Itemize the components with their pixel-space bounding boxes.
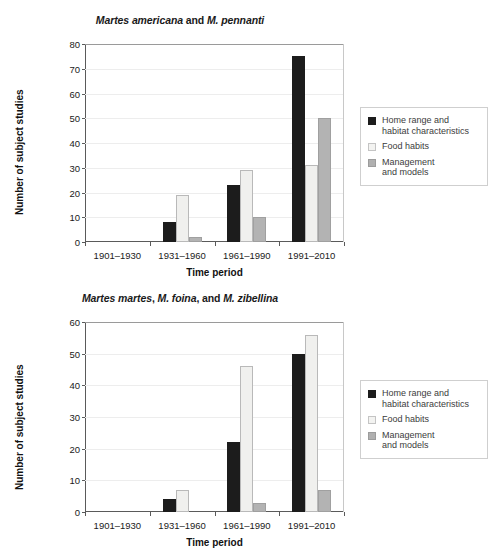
y-tick-mark — [82, 168, 85, 169]
x-tick-mark — [85, 242, 86, 246]
y-tick-label: 30 — [69, 162, 80, 173]
x-tick-mark — [85, 512, 86, 516]
plot-right-border — [343, 44, 344, 242]
y-tick-label: 10 — [69, 475, 80, 486]
bar — [292, 56, 305, 242]
chart-title-part: Martes americana — [96, 14, 183, 26]
x-tick-mark — [215, 242, 216, 246]
y-tick-label: 50 — [69, 348, 80, 359]
legend-item[interactable]: Management and models — [368, 430, 480, 451]
y-tick-label: 40 — [69, 138, 80, 149]
legend-item[interactable]: Home range and habitat characteristics — [368, 388, 480, 409]
chart-title-part: M. pennanti — [207, 14, 264, 26]
x-tick-mark — [150, 512, 151, 516]
gray-square-icon — [368, 432, 376, 440]
y-tick-mark — [82, 193, 85, 194]
x-tick-mark — [279, 242, 280, 246]
x-tick-label: 1961–1990 — [223, 520, 271, 531]
gridline — [85, 118, 344, 119]
y-tick-mark — [82, 480, 85, 481]
y-tick-mark — [82, 94, 85, 95]
plot-top-border — [85, 322, 344, 323]
x-tick-label: 1901–1930 — [94, 520, 142, 531]
chart-title-part: , and — [196, 292, 223, 304]
y-tick-label: 30 — [69, 412, 80, 423]
bar — [240, 366, 253, 512]
x-tick-label: 1901–1930 — [94, 250, 142, 261]
bar — [240, 170, 253, 242]
bar — [176, 490, 189, 512]
x-axis-label-top: Time period — [85, 267, 344, 278]
gridline — [85, 69, 344, 70]
chart-title-part: and — [183, 14, 207, 26]
y-tick-mark — [82, 118, 85, 119]
y-tick-mark — [82, 143, 85, 144]
bar — [253, 217, 266, 242]
y-axis-label-bottom: Number of subject studies — [14, 364, 25, 490]
y-tick-label: 20 — [69, 443, 80, 454]
bar — [305, 165, 318, 242]
x-tick-mark — [344, 512, 345, 516]
y-axis-label-top: Number of subject studies — [14, 89, 25, 215]
chart-panel-martes-americana: Martes americana and M. pennanti Number … — [0, 0, 497, 284]
legend-item-label: Management and models — [382, 430, 435, 451]
y-tick-label: 80 — [69, 39, 80, 50]
chart-title-part: Martes martes — [82, 292, 152, 304]
x-tick-mark — [344, 242, 345, 246]
y-tick-label: 10 — [69, 212, 80, 223]
bar — [176, 195, 189, 242]
y-tick-label: 20 — [69, 187, 80, 198]
bar — [227, 185, 240, 242]
legend-item-label: Home range and habitat characteristics — [382, 388, 469, 409]
y-tick-label: 40 — [69, 380, 80, 391]
x-tick-label: 1991–2010 — [288, 520, 336, 531]
bar — [318, 490, 331, 512]
gridline — [85, 143, 344, 144]
chart-title-part: M. foina — [158, 292, 197, 304]
y-tick-label: 70 — [69, 63, 80, 74]
black-square-icon — [368, 390, 376, 398]
plot-area-top: 010203040506070801901–19301931–19601961–… — [85, 44, 344, 242]
light-square-icon — [368, 416, 376, 424]
plot-right-border — [343, 322, 344, 512]
legend-item[interactable]: Food habits — [368, 141, 480, 152]
gridline — [85, 94, 344, 95]
x-tick-label: 1931–1960 — [158, 250, 206, 261]
legend-bottom: Home range and habitat characteristicsFo… — [360, 380, 488, 459]
x-tick-mark — [279, 512, 280, 516]
legend-item-label: Management and models — [382, 157, 435, 178]
x-tick-label: 1961–1990 — [223, 250, 271, 261]
x-tick-mark — [150, 242, 151, 246]
y-tick-label: 50 — [69, 113, 80, 124]
x-axis-label-bottom: Time period — [85, 537, 344, 548]
y-tick-label: 60 — [69, 88, 80, 99]
y-tick-mark — [82, 449, 85, 450]
chart-panel-martes-martes: Martes martes, M. foina, and M. zibellin… — [0, 284, 497, 554]
y-tick-label: 0 — [75, 237, 80, 248]
y-tick-mark — [82, 217, 85, 218]
bar — [163, 499, 176, 512]
gray-square-icon — [368, 159, 376, 167]
bar — [163, 222, 176, 242]
bar — [253, 503, 266, 513]
legend-item[interactable]: Management and models — [368, 157, 480, 178]
y-tick-mark — [82, 385, 85, 386]
chart-title-top: Martes americana and M. pennanti — [0, 14, 360, 26]
chart-title-part: M. zibellina — [223, 292, 278, 304]
y-tick-mark — [82, 417, 85, 418]
legend-item[interactable]: Home range and habitat characteristics — [368, 115, 480, 136]
bar — [227, 442, 240, 512]
x-tick-label: 1991–2010 — [288, 250, 336, 261]
chart-title-bottom: Martes martes, M. foina, and M. zibellin… — [0, 292, 360, 304]
y-tick-mark — [82, 354, 85, 355]
black-square-icon — [368, 117, 376, 125]
bar — [189, 237, 202, 242]
y-tick-label: 0 — [75, 507, 80, 518]
y-tick-label: 60 — [69, 317, 80, 328]
legend-item[interactable]: Food habits — [368, 414, 480, 425]
y-tick-mark — [82, 44, 85, 45]
legend-item-label: Food habits — [382, 141, 429, 152]
legend-top: Home range and habitat characteristicsFo… — [360, 107, 488, 186]
plot-area-bottom: 01020304050601901–19301931–19601961–1990… — [85, 322, 344, 512]
legend-item-label: Home range and habitat characteristics — [382, 115, 469, 136]
